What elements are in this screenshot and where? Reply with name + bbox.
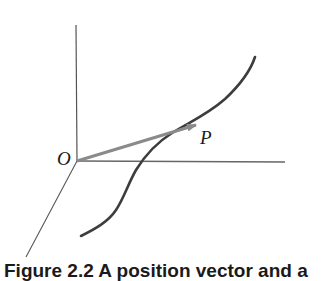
figure-caption: Figure 2.2 A position vector and a xyxy=(4,261,308,280)
horizontal-axis xyxy=(77,161,285,162)
origin-label: O xyxy=(57,149,71,168)
vertical-axis xyxy=(76,25,77,161)
point-p-label: P xyxy=(200,128,212,147)
depth-axis xyxy=(26,161,77,257)
space-curve xyxy=(81,57,255,236)
position-vector-arrow xyxy=(77,125,196,161)
